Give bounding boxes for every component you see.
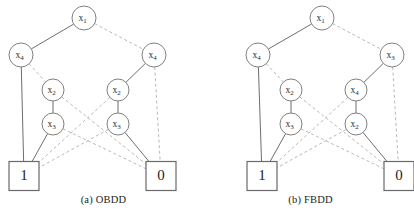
node-b-l1: x4 bbox=[246, 43, 270, 67]
edge-b-r3-to-b-one-dashed bbox=[277, 129, 346, 167]
terminal-label-1: 1 bbox=[258, 167, 266, 183]
fbdd-diagram: x1x4x3x2x4x3x210 bbox=[207, 0, 414, 194]
node-a-one: 1 bbox=[9, 162, 39, 191]
terminal-label-0: 0 bbox=[395, 167, 403, 183]
terminal-label-1: 1 bbox=[20, 167, 28, 183]
edge-b-l1-to-b-one-solid bbox=[258, 67, 261, 162]
edge-a-l3-to-a-one-solid bbox=[32, 134, 48, 162]
edge-b-l1-to-b-l2-dashed bbox=[266, 64, 283, 82]
node-layer: x1x4x3x2x4x3x210 bbox=[246, 6, 414, 191]
edge-b-root-to-b-r1-dashed bbox=[333, 24, 382, 50]
terminal-label-0: 0 bbox=[157, 167, 165, 183]
node-a-zero: 0 bbox=[146, 162, 176, 191]
edge-layer bbox=[258, 24, 398, 169]
node-b-zero: 0 bbox=[384, 162, 414, 191]
node-b-r1: x3 bbox=[380, 43, 404, 67]
node-b-one: 1 bbox=[247, 162, 277, 191]
node-b-r3: x2 bbox=[345, 113, 367, 135]
edge-b-r1-to-b-zero-dashed bbox=[393, 67, 398, 162]
edge-a-l1-to-a-l2-dashed bbox=[29, 64, 45, 82]
node-a-l2: x2 bbox=[42, 79, 64, 101]
fbdd-caption: (b) FBDD bbox=[207, 194, 414, 205]
node-a-r3: x3 bbox=[107, 113, 129, 135]
node-a-r2: x2 bbox=[107, 79, 129, 101]
node-b-root: x1 bbox=[310, 6, 334, 30]
edge-a-l2-to-a-zero-dashed bbox=[62, 97, 146, 164]
node-b-l3: x3 bbox=[280, 113, 302, 135]
edge-a-r1-to-a-zero-dashed bbox=[155, 67, 160, 162]
edge-a-root-to-a-l1-solid bbox=[31, 24, 73, 49]
node-b-l2: x2 bbox=[280, 79, 302, 101]
node-a-r1: x4 bbox=[142, 43, 166, 67]
edge-a-l3-to-a-zero-dashed bbox=[63, 129, 146, 169]
node-layer: x1x4x4x2x2x3x310 bbox=[9, 6, 176, 191]
edge-b-l3-to-b-one-solid bbox=[270, 134, 286, 162]
obdd-caption: (a) OBDD bbox=[0, 194, 207, 205]
node-b-r2: x4 bbox=[345, 79, 367, 101]
edge-b-l2-to-b-zero-dashed bbox=[300, 97, 384, 164]
obdd-diagram: x1x4x4x2x2x3x310 bbox=[0, 0, 207, 194]
node-a-root: x1 bbox=[72, 6, 96, 30]
edge-a-r1-to-a-r2-solid bbox=[126, 63, 146, 82]
edge-layer bbox=[21, 24, 160, 169]
edge-a-root-to-a-r1-dashed bbox=[95, 24, 144, 50]
node-a-l1: x4 bbox=[9, 43, 33, 67]
edge-b-l3-to-b-zero-dashed bbox=[301, 129, 384, 169]
edge-a-l1-to-a-one-solid bbox=[21, 67, 23, 162]
edge-a-r3-to-a-one-dashed bbox=[39, 129, 108, 167]
edge-b-r1-to-b-r2-solid bbox=[364, 63, 384, 82]
edge-b-root-to-b-l1-solid bbox=[268, 24, 311, 49]
node-a-l3: x3 bbox=[42, 113, 64, 135]
